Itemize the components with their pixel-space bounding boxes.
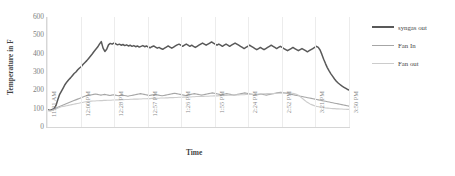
x-tick-4: 1:26 PM <box>184 91 191 131</box>
x-tick-7: 2:52 PM <box>285 91 292 131</box>
legend-swatch-icon <box>372 45 394 46</box>
x-tick-8: 3:21 PM <box>318 91 325 131</box>
legend-item-fan-out[interactable]: Fan out <box>372 54 454 72</box>
legend-swatch-icon <box>372 63 394 64</box>
x-tick-3: 12:57 PM <box>151 91 158 131</box>
legend-label: Fan out <box>398 60 419 67</box>
legend-swatch-icon <box>372 26 394 28</box>
legend-item-fan-in[interactable]: Fan In <box>372 36 454 54</box>
x-tick-5: 1:55 PM <box>218 91 225 131</box>
legend-label: Fan In <box>398 42 416 49</box>
x-tick-2: 12:28 PM <box>117 91 124 131</box>
legend: syngas outFan InFan out <box>372 18 454 72</box>
x-tick-6: 2:24 PM <box>251 91 258 131</box>
legend-item-syngas-out[interactable]: syngas out <box>372 18 454 36</box>
x-tick-9: 3:50 PM <box>352 91 359 131</box>
temperature-time-line-chart: Temperature in F 0100200300400500600 11:… <box>0 0 455 176</box>
x-tick-0: 11:31 AM <box>50 91 57 131</box>
x-axis-title: Time <box>186 148 202 157</box>
x-tick-1: 12:00 PM <box>84 91 91 131</box>
legend-label: syngas out <box>398 24 427 31</box>
